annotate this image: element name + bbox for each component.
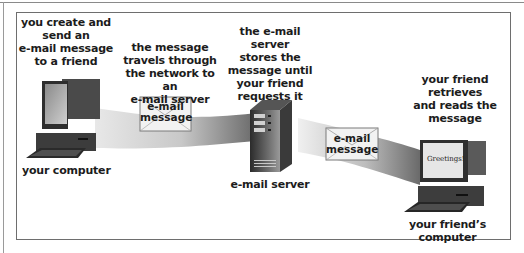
- email-server-icon: [250, 100, 292, 172]
- your-computer-icon: [26, 79, 100, 158]
- email-server-label: e-mail server: [230, 178, 310, 191]
- step-create-line: you create and: [16, 16, 116, 29]
- step-store-line: the e-mail server: [225, 25, 315, 51]
- step-create-line: send an: [16, 29, 116, 42]
- step-travel-line: the network to an: [117, 67, 223, 93]
- step-travel-label: the message travels through the network …: [117, 41, 223, 106]
- step-create-line: to a friend: [16, 55, 116, 68]
- step-travel-line: e-mail server: [117, 93, 223, 106]
- step-create-line: e-mail message: [16, 42, 116, 55]
- step-retrieve-line: and reads the: [410, 99, 500, 112]
- step-travel-line: travels through: [117, 54, 223, 67]
- step-retrieve-line: retrieves: [410, 86, 500, 99]
- envelope-1-line2: message: [140, 112, 191, 123]
- step-store-line: requests it: [225, 90, 315, 103]
- step-store-line: your friend: [225, 77, 315, 90]
- friends-computer-label: your friend’s computer: [385, 218, 510, 244]
- step-retrieve-line: message: [410, 112, 500, 125]
- envelope-2-line2: message: [326, 144, 378, 155]
- your-computer-label: your computer: [22, 164, 112, 177]
- step-store-label: the e-mail server stores the message unt…: [225, 25, 315, 103]
- step-retrieve-label: your friend retrieves and reads the mess…: [410, 73, 500, 125]
- step-store-line: message until: [225, 64, 315, 77]
- step-retrieve-line: your friend: [410, 73, 500, 86]
- envelope-label-2: e-mail message: [326, 133, 378, 155]
- step-travel-line: the message: [117, 41, 223, 54]
- step-store-line: stores the: [225, 51, 315, 64]
- screen-greeting: Greetings!: [427, 155, 465, 163]
- step-create-label: you create and send an e-mail message to…: [16, 16, 116, 68]
